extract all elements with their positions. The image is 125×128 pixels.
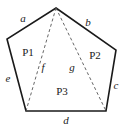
side-label-a: a bbox=[20, 13, 26, 24]
side-label-b: b bbox=[85, 17, 91, 28]
side-label-c: c bbox=[114, 80, 119, 91]
pentagon-figure: a b c d e f g P1 P2 P3 bbox=[0, 0, 125, 128]
side-label-e: e bbox=[6, 73, 11, 84]
region-label-p2: P2 bbox=[89, 50, 101, 61]
region-label-p3: P3 bbox=[56, 86, 68, 97]
diagonal-label-f: f bbox=[41, 62, 44, 73]
diagonal-label-g: g bbox=[69, 62, 75, 73]
figure-canvas bbox=[0, 0, 125, 128]
region-label-p1: P1 bbox=[22, 47, 34, 58]
side-label-d: d bbox=[63, 115, 69, 126]
